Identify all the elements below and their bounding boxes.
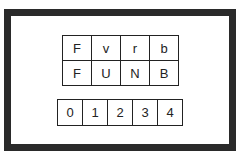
index-cell: 3	[133, 100, 158, 126]
letter-grid: F v r b F U N B	[62, 35, 179, 86]
index-row-cells: 0 1 2 3 4	[58, 100, 183, 126]
letter-row-2: F U N B	[63, 61, 179, 86]
index-cell: 4	[158, 100, 183, 126]
index-cell: 0	[58, 100, 83, 126]
index-row: 0 1 2 3 4	[57, 99, 183, 126]
letter-cell: F	[63, 36, 92, 61]
letter-cell: r	[121, 36, 150, 61]
letter-cell: b	[150, 36, 179, 61]
letter-cell: N	[121, 61, 150, 86]
index-cell: 2	[108, 100, 133, 126]
letter-row-1: F v r b	[63, 36, 179, 61]
letter-cell: F	[63, 61, 92, 86]
letter-cell: v	[92, 36, 121, 61]
letter-cell: B	[150, 61, 179, 86]
index-cell: 1	[83, 100, 108, 126]
letter-cell: U	[92, 61, 121, 86]
